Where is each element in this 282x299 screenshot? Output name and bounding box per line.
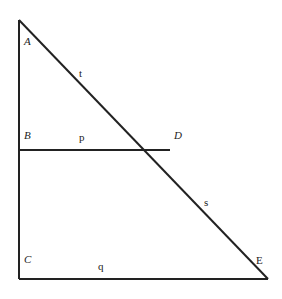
- segment-label-s: s: [204, 196, 208, 208]
- triangle-diagram: A B C D E t p s q: [0, 0, 282, 299]
- segment-label-p: p: [79, 131, 85, 143]
- point-label-C: C: [24, 253, 32, 265]
- point-label-B: B: [24, 129, 31, 141]
- segment-label-t: t: [79, 67, 82, 79]
- point-label-D: D: [173, 129, 182, 141]
- segment-label-q: q: [98, 260, 104, 272]
- point-label-E: E: [256, 254, 263, 266]
- point-label-A: A: [23, 35, 31, 47]
